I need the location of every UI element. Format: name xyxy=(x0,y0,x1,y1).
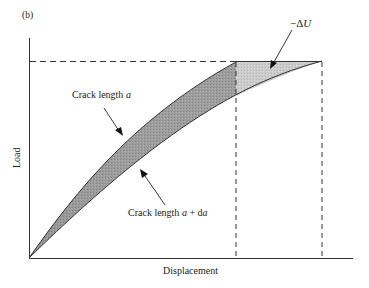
label-crack-length-a-plus-da: Crack length a + da xyxy=(128,207,208,218)
panel-label: (b) xyxy=(22,10,33,21)
diagram-canvas: (b) Crack length a Crack length a + da −… xyxy=(0,0,369,288)
arrowhead-icon xyxy=(140,169,148,178)
label-delta-u: −ΔU xyxy=(290,17,312,29)
x-axis-label: Displacement xyxy=(163,265,218,276)
load-displacement-diagram: (b) Crack length a Crack length a + da −… xyxy=(0,0,369,288)
y-axis-label: Load xyxy=(11,147,22,168)
arrowhead-icon xyxy=(115,127,123,136)
arrow-crack-a-da xyxy=(140,169,165,205)
label-crack-length-a: Crack length a xyxy=(72,89,131,100)
arrow-crack-a xyxy=(104,108,123,136)
